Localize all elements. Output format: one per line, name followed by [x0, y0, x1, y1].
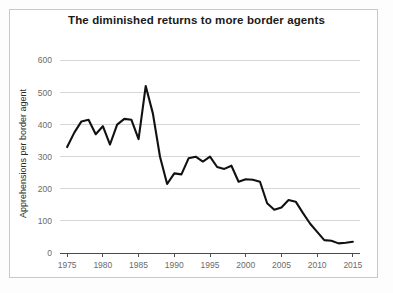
- y-tick-label: 500: [38, 88, 52, 98]
- x-tick-label: 2015: [343, 260, 362, 270]
- line-chart-plot: 0100200300400500600 19751980198519901995…: [0, 0, 393, 293]
- y-tick-label: 300: [38, 152, 52, 162]
- x-axis: [60, 253, 360, 257]
- x-tick-label: 1985: [129, 260, 148, 270]
- gridlines-group: [60, 60, 360, 220]
- y-tick-label: 100: [38, 216, 52, 226]
- data-series-group: [67, 86, 353, 243]
- x-tick-label: 2010: [308, 260, 327, 270]
- y-axis-tick-labels: 0100200300400500600: [38, 55, 52, 258]
- x-tick-label: 1975: [58, 260, 77, 270]
- y-tick-label: 200: [38, 184, 52, 194]
- chart-card: The diminished returns to more border ag…: [0, 0, 393, 293]
- y-tick-label: 400: [38, 120, 52, 130]
- x-tick-label: 2000: [236, 260, 255, 270]
- x-tick-label: 1995: [201, 260, 220, 270]
- y-tick-label: 600: [38, 55, 52, 65]
- data-line-apprehensions: [67, 86, 353, 243]
- y-axis-title: Apprehensions per border agent: [18, 88, 28, 218]
- x-tick-label: 1990: [165, 260, 184, 270]
- y-tick-label: 0: [47, 248, 52, 258]
- x-axis-tick-labels: 197519801985199019952000200520102015: [58, 260, 363, 270]
- x-tick-label: 2005: [272, 260, 291, 270]
- x-tick-label: 1980: [93, 260, 112, 270]
